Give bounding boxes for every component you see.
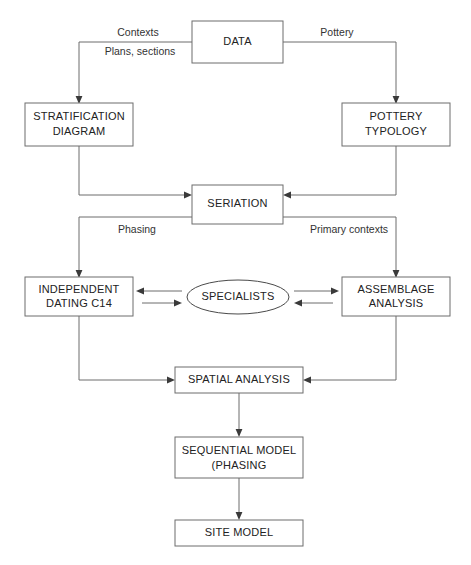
edge-data-to-pottery — [283, 42, 399, 104]
node-stratification-diagram[interactable]: STRATIFICATION DIAGRAM — [25, 103, 133, 146]
node-seriation[interactable]: SERIATION — [192, 185, 283, 224]
node-label-site-model: SITE MODEL — [205, 526, 274, 538]
flowchart-canvas: Contexts Plans, sections Pottery Phasing… — [0, 0, 471, 565]
edge-line — [309, 316, 396, 380]
node-label-spatial-analysis: SPATIAL ANALYSIS — [188, 373, 290, 385]
node-independent-dating[interactable]: INDEPENDENT DATING C14 — [25, 277, 133, 316]
edge-assemblage-to-specialists — [294, 300, 333, 307]
edge-pottery-to-seriation — [283, 146, 396, 198]
edge-assemblage-to-spatial — [303, 316, 396, 383]
edge-label-pottery: Pottery — [320, 26, 354, 38]
edge-spatial-to-sequential — [236, 393, 243, 437]
arrow-head-icon — [167, 377, 175, 384]
node-label-dating-line1: INDEPENDENT — [38, 283, 119, 295]
node-site-model[interactable]: SITE MODEL — [175, 520, 303, 546]
node-label-sequential-line2: (PHASING — [212, 459, 267, 471]
node-label-specialists: SPECIALISTS — [201, 290, 274, 302]
arrow-head-icon — [136, 288, 144, 295]
edge-label-phasing: Phasing — [118, 223, 156, 235]
node-label-data: DATA — [223, 35, 252, 47]
node-sequential-model[interactable]: SEQUENTIAL MODEL (PHASING — [175, 437, 303, 478]
edge-sequential-to-site — [236, 478, 243, 520]
arrow-head-icon — [236, 512, 243, 520]
node-label-stratification-line1: STRATIFICATION — [33, 110, 125, 122]
node-label-assemblage-line2: ANALYSIS — [369, 297, 424, 309]
edge-dating-to-specialists — [142, 300, 182, 307]
node-label-assemblage-line1: ASSEMBLAGE — [357, 283, 434, 295]
node-pottery-typology[interactable]: POTTERY TYPOLOGY — [342, 103, 450, 146]
node-label-pottery-line1: POTTERY — [369, 110, 423, 122]
edge-line — [79, 146, 186, 195]
edge-line — [283, 42, 396, 98]
edge-stratification-to-seriation — [79, 146, 192, 198]
node-data[interactable]: DATA — [192, 21, 283, 63]
edge-label-plans-sections: Plans, sections — [105, 45, 176, 57]
node-label-pottery-line2: TYPOLOGY — [365, 125, 428, 137]
arrow-head-icon — [294, 300, 302, 307]
edge-label-contexts: Contexts — [117, 26, 158, 38]
arrow-head-icon — [331, 288, 339, 295]
arrow-head-icon — [174, 300, 182, 307]
flowchart-diagram: Contexts Plans, sections Pottery Phasing… — [0, 0, 471, 565]
node-label-seriation: SERIATION — [207, 197, 267, 209]
node-spatial-analysis[interactable]: SPATIAL ANALYSIS — [175, 367, 303, 393]
edge-line — [289, 146, 396, 195]
edge-specialists-to-dating — [136, 288, 182, 295]
edge-dating-to-spatial — [79, 316, 175, 383]
node-label-sequential-line1: SEQUENTIAL MODEL — [182, 444, 297, 456]
node-specialists[interactable]: SPECIALISTS — [187, 280, 289, 314]
arrow-head-icon — [303, 377, 311, 384]
node-label-stratification-line2: DIAGRAM — [53, 125, 106, 137]
edge-label-primary-contexts: Primary contexts — [310, 223, 388, 235]
arrow-head-icon — [283, 192, 291, 199]
arrow-head-icon — [184, 192, 192, 199]
arrow-head-icon — [236, 429, 243, 437]
edge-specialists-to-assemblage — [294, 288, 339, 295]
edge-line — [79, 316, 169, 380]
node-label-dating-line2: DATING C14 — [46, 297, 112, 309]
node-assemblage-analysis[interactable]: ASSEMBLAGE ANALYSIS — [342, 277, 450, 316]
